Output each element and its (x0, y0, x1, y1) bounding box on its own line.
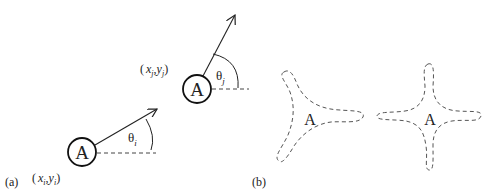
agent-i: A θi (68, 109, 157, 166)
angle-label-j: θj (216, 68, 225, 86)
four-armed-star-glyph: A (424, 111, 436, 128)
panel-label-a: (a) (5, 175, 18, 189)
three-armed-star-outline (277, 71, 363, 162)
position-label-j: (xj,yj) (140, 62, 168, 78)
panel-label-b: (b) (252, 175, 266, 189)
agent-glyph-j: A (190, 79, 204, 100)
panel-a: A θi A θj (xj,yj) (a) (xi,yi) (5, 15, 249, 189)
angle-arc-i (146, 119, 153, 150)
heading-arrow-i (95, 109, 157, 145)
three-armed-star-glyph: A (304, 111, 316, 128)
agent-j: A θj (183, 15, 249, 103)
angle-label-i: θi (128, 130, 137, 148)
panel-b: A A (b) (252, 64, 481, 189)
agent-glyph-i: A (75, 142, 89, 163)
heading-arrow-j (203, 15, 235, 76)
position-label-i: (xi,yi) (32, 171, 60, 187)
diagram-canvas: A θi A θj (xj,yj) (a) (xi,yi) (0, 0, 497, 194)
